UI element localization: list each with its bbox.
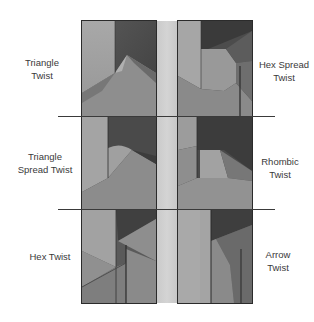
label-line: Rhombic: [255, 155, 305, 168]
label-line: Triangle: [14, 150, 76, 163]
origami-twist-figure: Triangle Twist Triangle Spread Twist Hex…: [0, 0, 314, 322]
label-line: Arrow: [255, 248, 301, 261]
label-line: Hex Twist: [22, 250, 78, 263]
label-line: Twist: [255, 261, 301, 274]
label-line: Hex Spread: [254, 58, 314, 71]
label-rhombic-twist: Rhombic Twist: [255, 155, 305, 181]
label-line: Twist: [14, 69, 70, 82]
label-line: Twist: [255, 168, 305, 181]
center-paper-strip: [156, 21, 178, 303]
label-line: Spread Twist: [14, 163, 76, 176]
divider-line-2: [58, 209, 275, 210]
label-line: Triangle: [14, 56, 70, 69]
photo-hex-spread-twist: [178, 21, 252, 116]
photo-triangle-spread-twist: [82, 116, 156, 209]
divider-line-1: [58, 116, 275, 117]
label-hex-twist: Hex Twist: [22, 250, 78, 263]
label-triangle-spread-twist: Triangle Spread Twist: [14, 150, 76, 176]
photo-triangle-twist: [82, 21, 156, 116]
label-hex-spread-twist: Hex Spread Twist: [254, 58, 314, 84]
photo-hex-twist: [82, 209, 156, 303]
photo-arrow-twist: [178, 209, 252, 303]
photo-rhombic-twist: [178, 116, 252, 209]
label-arrow-twist: Arrow Twist: [255, 248, 301, 274]
label-line: Twist: [254, 71, 314, 84]
label-triangle-twist: Triangle Twist: [14, 56, 70, 82]
